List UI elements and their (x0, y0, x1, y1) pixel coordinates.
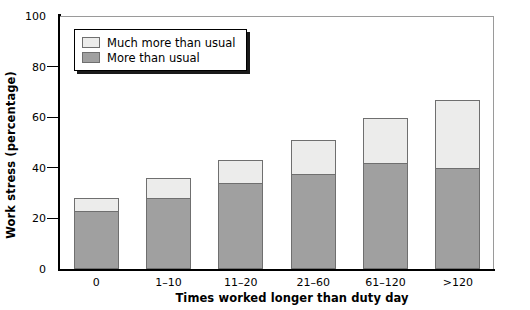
chart-legend: Much more than usualMore than usual (74, 29, 247, 71)
bar-segment-more-than-usual (435, 168, 480, 269)
bar-segment-more-than-usual (291, 174, 336, 269)
x-axis-tick-label: 61–120 (349, 276, 421, 289)
y-axis-tick-label: 80 (0, 60, 46, 73)
x-axis-tick-label: 0 (60, 276, 132, 289)
stacked-bar (291, 140, 336, 269)
legend-label: More than usual (107, 51, 200, 65)
y-axis-tick-label: 0 (0, 263, 46, 276)
stacked-bar (74, 198, 119, 269)
stacked-bar (218, 160, 263, 269)
stacked-bar (435, 100, 480, 270)
y-axis-tick-label: 100 (0, 10, 46, 23)
y-axis-tick-label: 60 (0, 111, 46, 124)
bar-segment-much-more-than-usual (146, 178, 191, 198)
y-axis-tick-label: 40 (0, 161, 46, 174)
legend-label: Much more than usual (107, 36, 236, 50)
x-axis-tick-label: 11–20 (205, 276, 277, 289)
x-axis-tick-label: 21–60 (277, 276, 349, 289)
bar-segment-more-than-usual (218, 183, 263, 269)
bar-segment-more-than-usual (363, 163, 408, 269)
y-axis-tick-label: 20 (0, 212, 46, 225)
chart-figure: Work stress (percentage) 020406080100 01… (0, 0, 530, 310)
stacked-bar (363, 118, 408, 269)
stacked-bar (146, 178, 191, 269)
x-axis-tick-label: 1–10 (132, 276, 204, 289)
bar-segment-much-more-than-usual (74, 198, 119, 211)
x-axis-title: Times worked longer than duty day (60, 291, 524, 305)
bar-segment-much-more-than-usual (218, 160, 263, 183)
legend-swatch-more (82, 52, 100, 63)
legend-item: More than usual (82, 50, 236, 65)
legend-swatch-much (82, 37, 100, 48)
bar-segment-more-than-usual (146, 198, 191, 269)
bar-segment-much-more-than-usual (291, 140, 336, 174)
bar-segment-much-more-than-usual (435, 100, 480, 168)
legend-item: Much more than usual (82, 35, 236, 50)
bar-segment-much-more-than-usual (363, 118, 408, 162)
bar-segment-more-than-usual (74, 211, 119, 269)
x-axis-tick-label: >120 (422, 276, 494, 289)
